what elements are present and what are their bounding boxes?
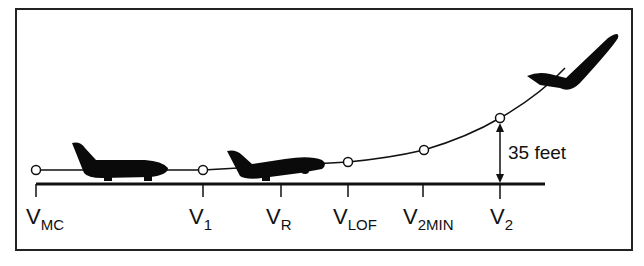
- label-vlof: VLOF: [333, 206, 377, 228]
- speed-ticks: [36, 184, 500, 199]
- label-v2min: V2MIN: [403, 206, 454, 228]
- diagram-frame: [16, 9, 632, 250]
- point-vlof: [344, 158, 353, 167]
- label-vmc: VMC: [26, 206, 64, 228]
- aircraft-icon-rotation: [227, 151, 325, 182]
- aircraft-icon-climb: [527, 34, 618, 90]
- aircraft-icon-ground-roll: [72, 143, 168, 181]
- height-arrow: [496, 123, 504, 183]
- takeoff-diagram: [0, 0, 644, 266]
- point-v1: [199, 166, 208, 175]
- point-vmc: [32, 166, 41, 175]
- height-label: 35 feet: [508, 142, 566, 164]
- label-v2: V2: [490, 206, 513, 228]
- label-vr: VR: [266, 206, 292, 228]
- flight-path: [36, 68, 565, 170]
- point-v2: [496, 114, 505, 123]
- label-v1: V1: [189, 206, 212, 228]
- point-v2min: [420, 146, 429, 155]
